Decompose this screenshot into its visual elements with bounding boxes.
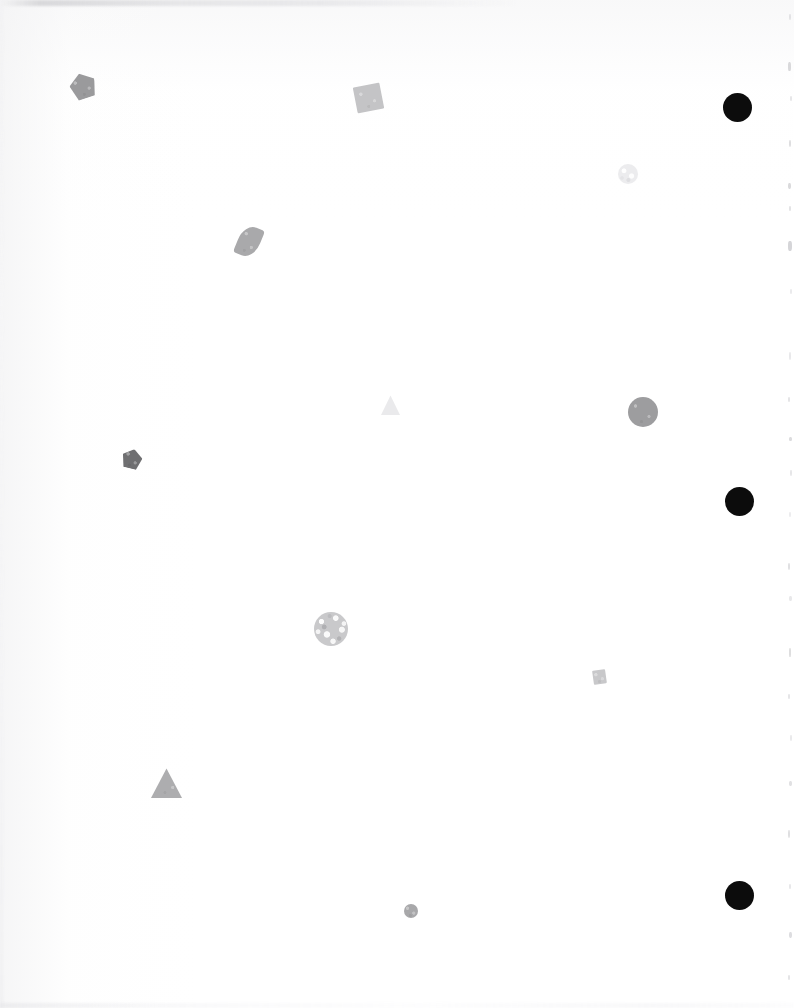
edge-speck-13	[788, 563, 790, 570]
left-edge-shading-artifact	[0, 0, 3, 1008]
edge-speck-18	[789, 781, 792, 786]
edge-speck-19	[788, 830, 790, 838]
edge-speck-20	[789, 884, 791, 889]
edge-speck-8	[789, 352, 791, 360]
edge-speck-11	[790, 470, 792, 476]
bottom-edge-smudge-artifact	[0, 1003, 794, 1008]
lens-upper-left	[233, 223, 265, 260]
edge-speck-9	[788, 397, 790, 402]
edge-speck-5	[789, 206, 791, 211]
circle-gray-mid-right	[628, 397, 658, 427]
circle-black-mid-right	[725, 487, 754, 516]
top-edge-smudge-artifact	[0, 0, 520, 6]
edge-speck-10	[789, 437, 792, 441]
edge-speck-6	[788, 241, 792, 251]
circle-textured-center	[314, 612, 348, 646]
triangle-gray-lower-left	[151, 768, 182, 798]
triangle-faint-center	[381, 395, 400, 415]
edge-speck-22	[788, 975, 790, 980]
circle-small-bottom-center	[404, 904, 418, 918]
edge-speck-16	[788, 694, 790, 699]
edge-speck-0	[789, 14, 791, 20]
edge-speck-21	[789, 932, 792, 938]
edge-speck-15	[789, 648, 791, 657]
pentagon-mid-left	[120, 447, 144, 471]
circle-black-bottom-right	[725, 881, 754, 910]
edge-speck-7	[790, 289, 792, 294]
square-small-lower-right	[592, 669, 607, 685]
edge-speck-12	[789, 512, 791, 517]
square-top-center	[353, 83, 384, 114]
edge-speck-4	[788, 183, 791, 189]
pentagon-top-left	[67, 70, 100, 103]
edge-speck-14	[789, 596, 792, 601]
edge-speck-1	[788, 62, 791, 71]
edge-speck-17	[790, 735, 792, 741]
edge-speck-3	[789, 140, 791, 147]
shape-canvas	[0, 0, 794, 1008]
circle-faint-upper-right	[618, 164, 638, 184]
edge-speck-2	[790, 96, 792, 101]
circle-black-top-right	[723, 93, 752, 122]
right-margin-specks	[780, 0, 794, 1008]
